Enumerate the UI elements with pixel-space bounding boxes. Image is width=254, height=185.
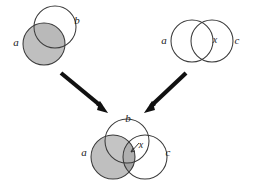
label-b-tl: b [74,14,80,26]
label-b-bt: b [125,112,131,124]
label-x-bt: x [138,139,144,150]
figure-canvas: a b a x c [0,0,254,185]
label-c-tr: c [235,34,240,46]
label-a-bt: a [81,146,87,158]
panel-venn-ac: a x c [161,20,239,62]
label-x-tr: x [212,34,218,45]
label-a-tr: a [161,34,167,46]
venn-composition-figure: a b a x c [0,0,254,185]
label-a-tl: a [13,36,19,48]
label-c-bt: c [166,146,171,158]
arrow-right [144,73,186,113]
circle-a-outline-tr [171,20,213,62]
arrow-left [61,73,108,113]
panel-venn-abc: b a x c [81,112,170,179]
